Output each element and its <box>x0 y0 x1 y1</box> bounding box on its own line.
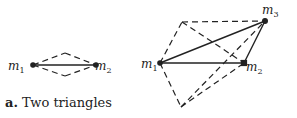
solid-edge-m1-m3 <box>160 21 265 63</box>
label-left-m2: m2 <box>95 59 111 75</box>
point-m3 <box>263 19 268 24</box>
dashed-edge-topleft-m3 <box>182 21 265 22</box>
dashed-edge-top-m2 <box>65 53 96 65</box>
dashed-edge-m1-topleft <box>160 22 182 63</box>
label-right-m2: m2 <box>246 60 262 76</box>
dashed-edge-bottom-m2 <box>65 65 96 76</box>
dashed-edge-m1-top <box>33 53 65 65</box>
caption-tag: a. <box>5 95 18 110</box>
label-right-m1: m1 <box>141 57 157 73</box>
caption-text: Two triangles <box>22 95 112 110</box>
dashed-edge-bottom-m2 <box>181 63 244 107</box>
figure-caption: a. Two triangles <box>5 95 112 110</box>
solid-edge-m2-m3 <box>244 21 265 63</box>
dashed-edge-m1-bottom <box>33 65 65 76</box>
point-m1 <box>31 63 35 67</box>
label-right-m3: m3 <box>262 3 278 19</box>
dashed-edge-m1-bottom <box>160 63 181 107</box>
left-figure-two-body <box>31 53 98 76</box>
point-m1 <box>158 61 162 65</box>
label-left-m1: m1 <box>8 59 24 75</box>
